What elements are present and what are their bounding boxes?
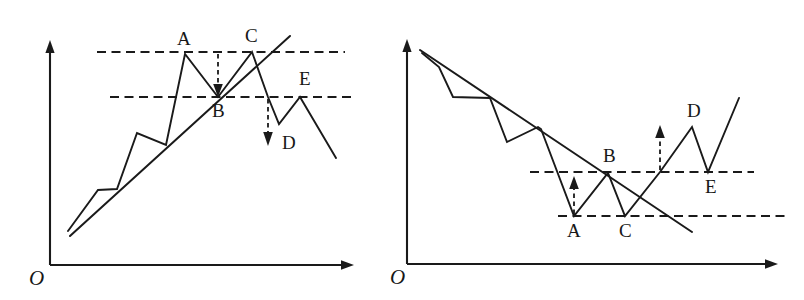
left-label-e: E	[299, 69, 311, 88]
right-label-a: A	[567, 221, 581, 240]
right-break-target-head	[655, 125, 665, 138]
right-label-d: D	[687, 101, 701, 120]
left-label-b: B	[212, 101, 225, 120]
right-label-c: C	[619, 221, 632, 240]
right-x-axis-arrowhead	[765, 259, 778, 268]
left-chart-canvas	[0, 0, 402, 300]
right-origin-label: O	[390, 267, 405, 288]
left-price-path	[68, 52, 336, 231]
right-y-axis-arrowhead	[402, 39, 411, 52]
left-label-c: C	[245, 26, 258, 45]
left-x-axis-arrowhead	[341, 260, 354, 269]
left-break-target-head	[263, 132, 273, 146]
right-downtrend-line	[420, 50, 692, 232]
right-break-arrow-a-head	[569, 176, 579, 189]
left-label-a: A	[177, 29, 191, 48]
chart-panel-left: A B C D E O	[0, 0, 402, 300]
left-label-d: D	[282, 133, 296, 152]
left-origin-label: O	[29, 268, 44, 289]
right-label-e: E	[705, 177, 717, 196]
right-label-b: B	[603, 146, 616, 165]
left-break-arrow-b-head	[213, 84, 223, 97]
figure-root: A B C D E O	[0, 0, 804, 300]
right-price-path	[422, 53, 739, 216]
left-y-axis-arrowhead	[45, 40, 54, 53]
chart-panel-right: A B C D E O	[402, 0, 804, 300]
